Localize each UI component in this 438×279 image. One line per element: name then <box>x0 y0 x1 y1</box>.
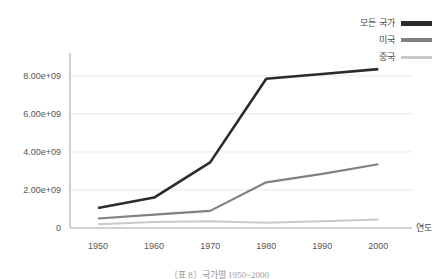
axis-spines <box>70 53 412 228</box>
x-tick-label: 1980 <box>256 241 276 251</box>
x-axis-tick-labels: 195019601970198019902000 <box>88 241 388 251</box>
x-tick-label: 1950 <box>88 241 108 251</box>
series-line-0 <box>98 69 378 208</box>
x-tick-label: 1990 <box>312 241 332 251</box>
y-tick-label: 8.00e+09 <box>23 71 61 81</box>
series-lines <box>98 69 378 224</box>
figure-caption: 〔표 8〕국가별 1950~2000 <box>0 268 438 279</box>
gridlines <box>70 76 412 228</box>
series-line-2 <box>98 219 378 224</box>
x-axis-title: 연도 <box>416 223 432 233</box>
y-axis-tick-labels: 02.00e+094.00e+096.00e+098.00e+09 <box>23 71 61 233</box>
y-tick-label: 4.00e+09 <box>23 147 61 157</box>
y-tick-label: 6.00e+09 <box>23 109 61 119</box>
x-tick-label: 1960 <box>144 241 164 251</box>
series-line-1 <box>98 164 378 218</box>
y-tick-label: 0 <box>56 223 61 233</box>
chart-figure: 모든 국가 미국 중국 02.00e+094.00e+096.00e+098.0… <box>0 0 438 279</box>
line-chart-svg: 02.00e+094.00e+096.00e+098.00e+09 195019… <box>0 0 438 279</box>
x-tick-label: 2000 <box>368 241 388 251</box>
y-tick-label: 2.00e+09 <box>23 185 61 195</box>
plot-area: 02.00e+094.00e+096.00e+098.00e+09 195019… <box>0 0 438 279</box>
x-tick-label: 1970 <box>200 241 220 251</box>
